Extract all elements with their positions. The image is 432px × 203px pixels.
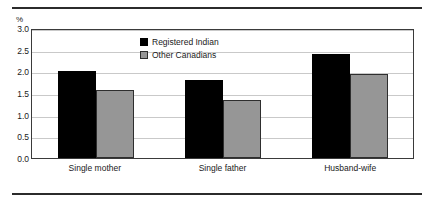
x-axis-tick-labels: Single motherSingle fatherHusband-wife xyxy=(31,163,414,179)
bar xyxy=(223,100,261,159)
chart-legend: Registered IndianOther Canadians xyxy=(140,37,219,60)
legend-swatch-icon xyxy=(140,38,148,46)
x-tick-label: Single mother xyxy=(31,163,159,179)
bar-group xyxy=(286,30,413,158)
bar xyxy=(96,90,134,158)
x-tick-label: Single father xyxy=(159,163,287,179)
bar xyxy=(312,54,350,158)
chart-figure: % 3.02.52.01.51.00.50.0 Single motherSin… xyxy=(0,0,432,203)
y-tick-label: 0.5 xyxy=(3,133,29,142)
y-tick-label: 0.0 xyxy=(3,155,29,164)
plot-area xyxy=(31,29,414,159)
legend-item: Other Canadians xyxy=(140,50,219,60)
y-tick-label: 1.0 xyxy=(3,112,29,121)
y-tick-label: 1.5 xyxy=(3,90,29,99)
legend-item: Registered Indian xyxy=(140,37,219,47)
bar-groups xyxy=(32,30,413,158)
top-divider-rule xyxy=(12,7,422,9)
bottom-divider-rule xyxy=(12,193,422,195)
bar xyxy=(350,74,388,159)
bar xyxy=(58,71,96,158)
y-tick-label: 3.0 xyxy=(3,25,29,34)
y-axis-tick-labels: 3.02.52.01.51.00.50.0 xyxy=(0,29,29,159)
y-tick-label: 2.0 xyxy=(3,68,29,77)
y-tick-label: 2.5 xyxy=(3,47,29,56)
legend-swatch-icon xyxy=(140,51,148,59)
y-axis-unit-label: % xyxy=(16,16,23,24)
bar xyxy=(185,80,223,158)
legend-label: Registered Indian xyxy=(152,37,219,47)
x-tick-label: Husband-wife xyxy=(286,163,414,179)
legend-label: Other Canadians xyxy=(152,50,216,60)
